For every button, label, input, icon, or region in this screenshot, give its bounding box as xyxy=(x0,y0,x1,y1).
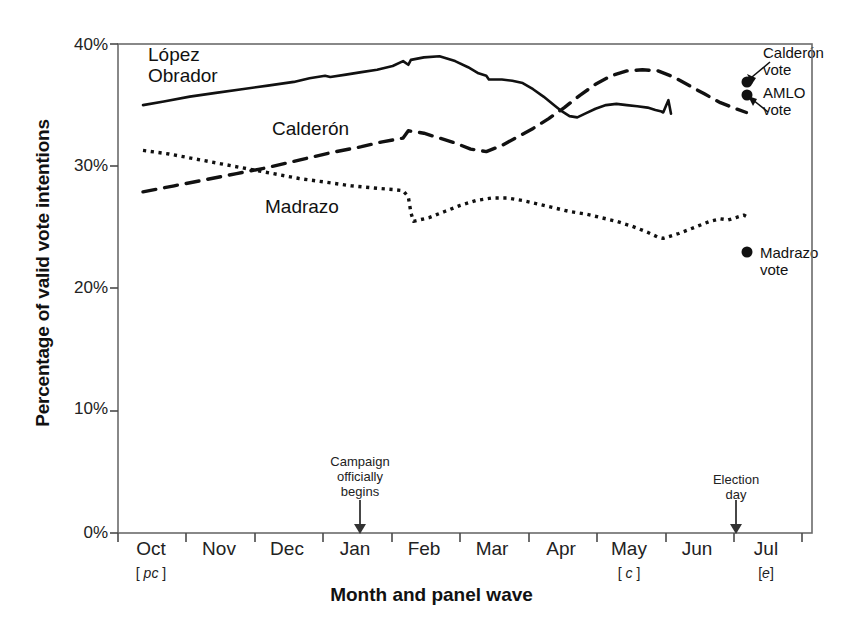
series-layer xyxy=(143,56,749,238)
marker-leader-lines xyxy=(747,62,770,112)
vote-markers xyxy=(742,77,753,258)
annotation-arrows xyxy=(354,500,742,534)
chart-canvas xyxy=(0,0,863,640)
series-line-l-pez-obrador xyxy=(143,56,671,117)
x-tick-marks xyxy=(118,533,802,542)
y-tick-marks xyxy=(110,44,118,533)
plot-frame xyxy=(118,44,812,533)
chart-figure: Percentage of valid vote intentions 40% … xyxy=(0,0,863,640)
series-line-madrazo xyxy=(143,150,749,238)
leader-amlo-arrowhead xyxy=(748,96,757,106)
leader-calderon xyxy=(752,62,770,77)
series-line-calder-n xyxy=(143,70,746,192)
marker-madrazo-vote xyxy=(742,247,753,258)
